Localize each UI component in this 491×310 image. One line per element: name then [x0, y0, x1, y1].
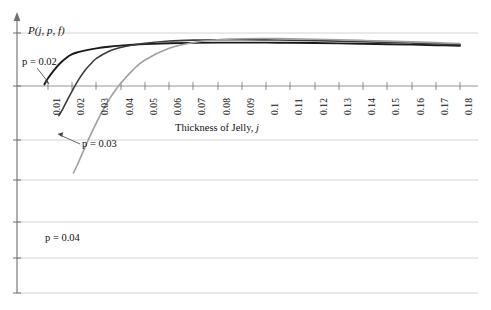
y-axis-arrow-icon: [14, 12, 21, 21]
plot-canvas: [0, 0, 491, 310]
x-tick-label: 0.13: [343, 98, 353, 115]
x-tick-label: 0.16: [416, 98, 426, 115]
x-tick-label: 0.14: [367, 98, 377, 115]
x-tick-label: 0.05: [149, 98, 159, 115]
x-tick-label: 0.02: [76, 98, 86, 115]
gridlines: [17, 33, 478, 293]
x-tick-label: 0.1: [270, 103, 280, 115]
series-line-p002: [44, 43, 460, 85]
x-tick-label: 0.07: [197, 98, 207, 115]
x-tick-label: 0.04: [125, 98, 135, 115]
x-tick-label: 0.03: [100, 98, 110, 115]
x-tick-label: 0.09: [246, 98, 256, 115]
x-tick-label: 0.11: [294, 98, 304, 115]
annotation-p003: p = 0.03: [82, 138, 117, 149]
x-axis-title-text: Thickness of Jelly: [175, 122, 251, 133]
chart-figure: P(j, p, f) Thickness of Jelly, j 0.010.0…: [0, 0, 491, 310]
x-axis-title-variable: j: [256, 122, 259, 133]
arrow-line-p003: [60, 135, 80, 144]
x-tick-label: 0.17: [440, 98, 450, 115]
x-tick-label: 0.01: [52, 98, 62, 115]
x-tick-label: 0.15: [391, 98, 401, 115]
x-axis-title: Thickness of Jelly, j: [175, 122, 259, 133]
y-axis-title: P(j, p, f): [28, 24, 65, 36]
arrow-head-p003-icon: [58, 132, 64, 137]
annotation-p002: p = 0.02: [22, 56, 57, 67]
x-tick-label: 0.18: [464, 98, 474, 115]
x-tick-label: 0.06: [173, 98, 183, 115]
annotation-p004: p = 0.04: [45, 232, 80, 243]
x-tick-label: 0.12: [319, 98, 329, 115]
x-tick-label: 0.08: [222, 98, 232, 115]
